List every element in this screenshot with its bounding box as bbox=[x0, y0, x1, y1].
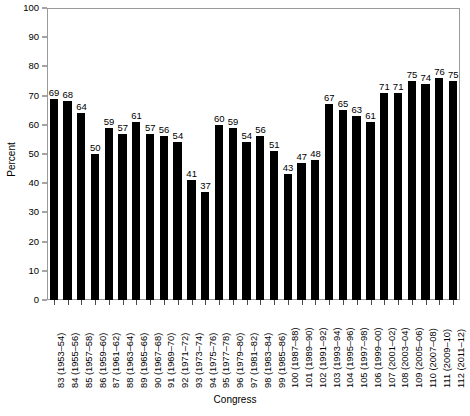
bar-group: 69 bbox=[47, 8, 61, 300]
x-axis-tick-label: 99 (1985–86) bbox=[278, 333, 287, 388]
x-axis-tick-label: 91 (1969–70) bbox=[167, 333, 176, 388]
bar-group: 75 bbox=[446, 8, 460, 300]
y-axis-tick-label: 30 bbox=[9, 208, 39, 218]
bar-group: 68 bbox=[61, 8, 75, 300]
bar-group: 41 bbox=[185, 8, 199, 300]
x-axis-tick-label: 107 (2001–02) bbox=[388, 328, 397, 388]
x-axis-tick-label: 83 (1953–54) bbox=[57, 333, 66, 388]
bar bbox=[325, 104, 333, 300]
bar-group: 71 bbox=[377, 8, 391, 300]
bar-group: 76 bbox=[432, 8, 446, 300]
bar-group: 56 bbox=[254, 8, 268, 300]
y-axis-tick-label: 70 bbox=[9, 91, 39, 101]
x-axis-tick-mark bbox=[329, 300, 330, 305]
x-axis-tick-label: 103 (1993–94) bbox=[333, 328, 342, 388]
bar bbox=[408, 81, 416, 300]
x-axis-tick-label: 88 (1963–64) bbox=[126, 333, 135, 388]
x-axis-tick-mark bbox=[178, 300, 179, 305]
bar bbox=[173, 142, 181, 300]
bar bbox=[201, 192, 209, 300]
bar bbox=[160, 136, 168, 300]
bar bbox=[50, 99, 58, 300]
x-axis-tick-label: 95 (1977–78) bbox=[222, 333, 231, 388]
y-axis-tick-label: 100 bbox=[9, 3, 39, 13]
bar-group: 63 bbox=[350, 8, 364, 300]
x-axis-tick-mark bbox=[150, 300, 151, 305]
bar bbox=[256, 136, 264, 300]
x-axis-tick-mark bbox=[384, 300, 385, 305]
bar-group: 50 bbox=[88, 8, 102, 300]
bar bbox=[421, 84, 429, 300]
x-axis-title: Congress bbox=[0, 394, 470, 405]
x-axis-tick-label: 84 (1955–56) bbox=[71, 333, 80, 388]
x-axis-tick-mark bbox=[54, 300, 55, 305]
bar-group: 64 bbox=[75, 8, 89, 300]
bar-group: 48 bbox=[309, 8, 323, 300]
x-axis-tick-mark bbox=[426, 300, 427, 305]
bar-group: 71 bbox=[391, 8, 405, 300]
x-axis-tick-label: 100 (1987–88) bbox=[291, 328, 300, 388]
x-axis-tick-label: 85 (1957–58) bbox=[85, 333, 94, 388]
bar bbox=[339, 110, 347, 300]
bar bbox=[435, 78, 443, 300]
x-axis-tick-mark bbox=[398, 300, 399, 305]
x-axis-tick-mark bbox=[123, 300, 124, 305]
bar bbox=[270, 151, 278, 300]
bar bbox=[187, 180, 195, 300]
bar bbox=[284, 174, 292, 300]
y-axis-tick-label: 20 bbox=[9, 237, 39, 247]
x-axis-tick-label: 108 (2003–04) bbox=[401, 328, 410, 388]
x-axis-tick-label: 106 (1999–00) bbox=[374, 328, 383, 388]
bar-group: 51 bbox=[267, 8, 281, 300]
x-axis-tick-label: 105 (1997–98) bbox=[360, 328, 369, 388]
x-axis-tick-mark bbox=[274, 300, 275, 305]
bar bbox=[118, 134, 126, 300]
bar bbox=[229, 128, 237, 300]
x-axis-tick-label: 87 (1961–62) bbox=[112, 333, 121, 388]
bar-group: 61 bbox=[364, 8, 378, 300]
bar bbox=[146, 134, 154, 300]
bar bbox=[105, 128, 113, 300]
x-axis-tick-label: 104 (1995–96) bbox=[346, 328, 355, 388]
x-axis-tick-mark bbox=[109, 300, 110, 305]
x-axis-tick-mark bbox=[315, 300, 316, 305]
bar-group: 59 bbox=[226, 8, 240, 300]
y-axis-tick-label: 90 bbox=[9, 32, 39, 42]
bar bbox=[366, 122, 374, 300]
x-axis-tick-mark bbox=[95, 300, 96, 305]
x-axis-tick-mark bbox=[219, 300, 220, 305]
bar bbox=[63, 101, 71, 300]
bar bbox=[77, 113, 85, 300]
bar-group: 57 bbox=[143, 8, 157, 300]
x-axis-tick-mark bbox=[81, 300, 82, 305]
bar bbox=[352, 116, 360, 300]
x-axis-tick-mark bbox=[192, 300, 193, 305]
bar bbox=[215, 125, 223, 300]
x-axis-tick-mark bbox=[247, 300, 248, 305]
x-axis-tick-mark bbox=[205, 300, 206, 305]
x-axis-tick-mark bbox=[302, 300, 303, 305]
x-axis-tick-label: 97 (1981–82) bbox=[250, 333, 259, 388]
x-axis-tick-label: 112 (2011–12) bbox=[457, 329, 466, 388]
x-axis-tick-mark bbox=[260, 300, 261, 305]
bar bbox=[91, 154, 99, 300]
bar-group: 60 bbox=[212, 8, 226, 300]
bar bbox=[132, 122, 140, 300]
bar-group: 67 bbox=[322, 8, 336, 300]
y-axis-tick-label: 10 bbox=[9, 266, 39, 276]
bar-group: 37 bbox=[198, 8, 212, 300]
x-axis-tick-mark bbox=[453, 300, 454, 305]
bar-group: 65 bbox=[336, 8, 350, 300]
x-axis-tick-label: 92 (1971–72) bbox=[181, 333, 190, 388]
bar-group: 59 bbox=[102, 8, 116, 300]
x-axis-tick-label: 102 (1991–92) bbox=[319, 328, 328, 388]
x-axis-tick-label: 94 (1975–76) bbox=[209, 333, 218, 388]
bar-chart: 0102030405060708090100 Percent 696864505… bbox=[0, 0, 470, 416]
x-axis-tick-label: 110 (2007–08) bbox=[429, 328, 438, 388]
x-axis-tick-mark bbox=[68, 300, 69, 305]
y-axis-tick-label: 0 bbox=[9, 295, 39, 305]
bar-group: 56 bbox=[157, 8, 171, 300]
x-axis-tick-mark bbox=[164, 300, 165, 305]
bar bbox=[394, 93, 402, 300]
x-axis-tick-mark bbox=[412, 300, 413, 305]
